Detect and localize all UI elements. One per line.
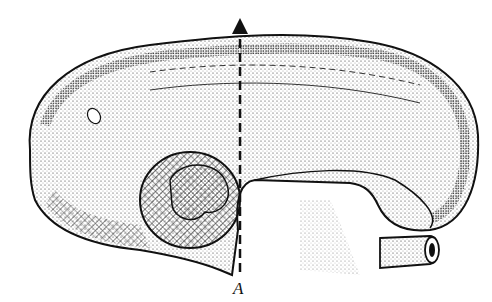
section-label-a: A (233, 279, 243, 299)
embryo-drawing (0, 0, 492, 302)
arrow-head-icon (232, 18, 248, 34)
